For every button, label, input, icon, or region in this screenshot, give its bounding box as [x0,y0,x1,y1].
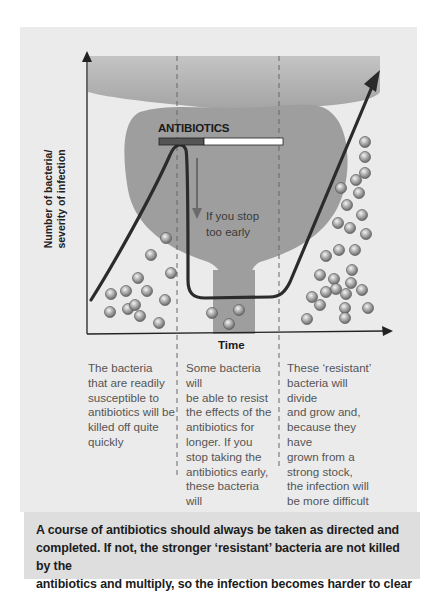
text-line: be more difficult [287,494,379,509]
text-line: because they have [287,420,379,450]
stop-early-line1: If you stop [206,208,276,224]
y-axis-label-line1: Number of bacteria/ [42,147,55,251]
text-line: Some bacteria will [186,361,278,391]
text-line: killed off quite [88,420,178,435]
text-line: bacteria will divide [287,376,379,406]
text-line: that are readily [88,376,178,391]
text-line: These ‘resistant’ [287,361,379,376]
text-line: and grow and, [287,405,379,420]
text-line: these bacteria will [186,479,278,509]
x-axis-label: Time [218,339,245,351]
summary-line: antibiotics and multiply, so the infecti… [36,575,416,593]
text-line: the infection will [287,479,379,494]
y-axis-label: Number of bacteria/ severity of infectio… [42,147,82,251]
text-line: susceptible to [88,391,178,406]
summary-text: A course of antibiotics should always be… [36,521,416,593]
stop-early-annotation: If you stop too early [206,208,276,240]
bacteria-susceptible [105,233,177,329]
text-line: antibiotics will be [88,405,178,420]
antibiotics-bar-remaining [204,138,283,145]
text-line: antibiotics early, [186,465,278,480]
text-line: stop taking the [186,450,278,465]
x-axis-arrowhead [382,326,393,336]
text-line: grown from a [287,450,379,465]
text-line: quickly [88,435,178,450]
phase-3-description: These ‘resistant’ bacteria will divide a… [287,361,379,524]
antibiotics-bar-taken [159,138,204,145]
y-axis-label-line2: severity of infection [55,147,68,251]
text-line: longer. If you [186,435,278,450]
text-line: The bacteria [88,361,178,376]
summary-line: completed. If not, the stronger ‘resista… [36,539,416,575]
text-line: antibiotics for [186,420,278,435]
summary-line: A course of antibiotics should always be… [36,521,416,539]
stop-early-line2: too early [206,224,276,240]
text-line: the effects of the [186,405,278,420]
text-line: be able to resist [186,391,278,406]
phase-1-description: The bacteria that are readily susceptibl… [88,361,178,450]
antibiotics-label: ANTIBIOTICS [158,122,229,134]
bladder-shape [88,56,380,109]
text-line: strong stock, [287,465,379,480]
